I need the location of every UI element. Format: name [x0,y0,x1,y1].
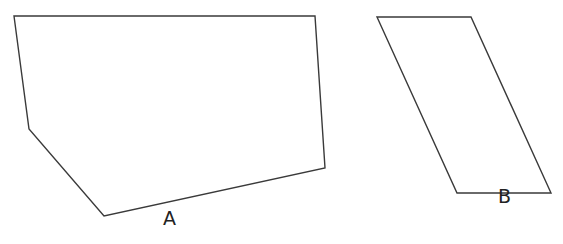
shape-a-pentagon [14,16,325,216]
diagram-canvas: A B [0,0,563,244]
shapes-svg [0,0,563,244]
shape-b-parallelogram [377,17,551,193]
label-b: B [498,187,511,206]
label-a: A [163,209,176,228]
